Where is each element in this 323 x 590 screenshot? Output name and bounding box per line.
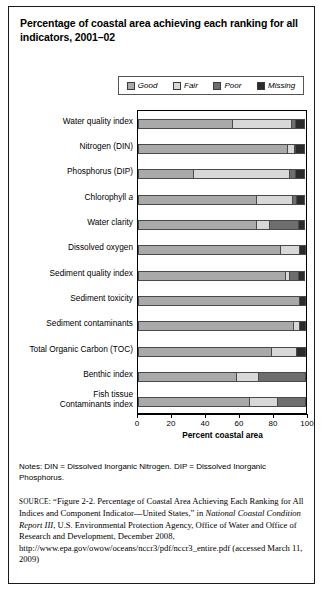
chart-notes: Notes: DIN = Dissolved Inorganic Nitroge…	[19, 462, 304, 483]
bar-row	[138, 271, 306, 281]
legend-item-poor: Poor	[213, 81, 241, 90]
bar-row	[138, 245, 306, 255]
y-axis-label: Water clarity	[9, 218, 137, 228]
bar-segment-fair	[249, 397, 278, 407]
bar-segment-good	[138, 245, 281, 255]
bar-row	[138, 119, 306, 129]
bar-segment-good	[138, 119, 233, 129]
bar-segment-poor	[258, 372, 306, 382]
y-axis-label: Water quality index	[9, 117, 137, 127]
bar-segment-good	[138, 220, 257, 230]
legend-label-missing: Missing	[268, 81, 295, 90]
legend-label-good: Good	[138, 81, 158, 90]
x-axis-tick	[307, 414, 308, 418]
source-text-2: , U.S. Environmental Protection Agency, …	[19, 520, 302, 564]
bar-segment-fair	[256, 195, 293, 205]
bar-segment-missing	[298, 220, 305, 230]
bar-segment-missing	[295, 144, 305, 154]
bar-segment-fair	[280, 245, 300, 255]
bar-segment-good	[138, 169, 194, 179]
legend-label-poor: Poor	[224, 81, 241, 90]
bar-row	[138, 195, 306, 205]
x-axis-tick-label: 60	[235, 419, 244, 428]
bar-row	[138, 220, 306, 230]
figure-container: Percentage of coastal area achieving eac…	[0, 0, 323, 590]
y-axis-label: Nitrogen (DIN)	[9, 142, 137, 152]
y-axis-label: Total Organic Carbon (TOC)	[9, 345, 137, 355]
bar-segment-good	[138, 372, 237, 382]
bar-segment-good	[138, 397, 250, 407]
y-axis-label: Chlorophyll a	[9, 193, 137, 203]
bar-segment-fair	[256, 220, 270, 230]
bar-segment-good	[138, 144, 288, 154]
legend-item-fair: Fair	[173, 81, 198, 90]
bar-segment-good	[138, 347, 272, 357]
bar-segment-fair	[193, 169, 290, 179]
bar-segment-missing	[296, 195, 305, 205]
x-axis-tick	[205, 414, 206, 418]
legend-swatch-good	[127, 82, 135, 90]
bar-row	[138, 296, 306, 306]
legend-swatch-missing	[257, 82, 265, 90]
chart-title: Percentage of coastal area achieving eac…	[20, 16, 300, 44]
chart-legend: Good Fair Poor Missing	[118, 76, 304, 95]
x-axis-tick	[171, 414, 172, 418]
bar-segment-missing	[299, 321, 306, 331]
y-axis-label: Sediment contaminants	[9, 319, 137, 329]
bar-segment-poor	[277, 397, 306, 407]
legend-label-fair: Fair	[184, 81, 198, 90]
x-axis-tick	[137, 414, 138, 418]
y-axis-label: Benthic index	[9, 370, 137, 380]
x-axis: 020406080100	[137, 414, 308, 415]
bar-segment-missing	[295, 169, 305, 179]
y-axis-label: Dissolved oxygen	[9, 243, 137, 253]
chart-plot-area	[137, 110, 307, 414]
x-axis-tick-label: 80	[269, 419, 278, 428]
legend-swatch-poor	[213, 82, 221, 90]
y-axis-category-labels: Water quality indexNitrogen (DIN)Phospho…	[5, 110, 137, 414]
legend-item-missing: Missing	[257, 81, 295, 90]
y-axis-label: Phosphorus (DIP)	[9, 167, 137, 177]
bar-row	[138, 397, 306, 407]
x-axis-tick-label: 40	[201, 419, 210, 428]
bar-segment-fair	[236, 372, 260, 382]
bar-row	[138, 372, 306, 382]
x-axis-label: Percent coastal area	[137, 430, 308, 440]
source-label: SOURCE	[19, 498, 49, 506]
bar-segment-good	[138, 195, 257, 205]
bar-segment-good	[138, 321, 294, 331]
legend-item-good: Good	[127, 81, 158, 90]
bar-segment-fair	[271, 347, 297, 357]
bar-segment-poor	[269, 220, 300, 230]
bar-segment-missing	[299, 245, 306, 255]
y-axis-label: Fish tissueContaminants index	[9, 390, 137, 409]
bar-segment-good	[138, 296, 300, 306]
bar-row	[138, 347, 306, 357]
bar-row	[138, 144, 306, 154]
chart-source: SOURCE: “Figure 2-2. Percentage of Coast…	[19, 496, 305, 565]
y-axis-label: Sediment toxicity	[9, 294, 137, 304]
legend-swatch-fair	[173, 82, 181, 90]
bar-segment-missing	[299, 296, 306, 306]
x-axis-tick-label: 20	[167, 419, 176, 428]
y-axis-label: Sediment quality index	[9, 269, 137, 279]
bar-segment-good	[138, 271, 286, 281]
bar-row	[138, 321, 306, 331]
bar-row	[138, 169, 306, 179]
bar-segment-fair	[232, 119, 292, 129]
x-axis-tick-label: 100	[300, 419, 313, 428]
x-axis-tick-label: 0	[135, 419, 139, 428]
bar-segment-missing	[298, 271, 305, 281]
bar-segment-missing	[296, 347, 306, 357]
x-axis-tick	[273, 414, 274, 418]
bar-segment-missing	[295, 119, 305, 129]
x-axis-tick	[239, 414, 240, 418]
